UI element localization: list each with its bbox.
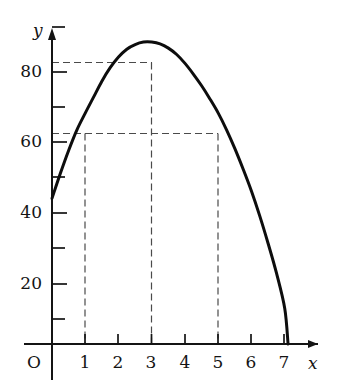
- x-tick-label-2: 2: [108, 354, 128, 371]
- x-tick-label-6: 6: [241, 354, 261, 371]
- axes: [24, 28, 318, 380]
- y-tick-label-60: 60: [8, 133, 42, 150]
- y-axis-arrow-icon: [48, 28, 56, 40]
- guide-lines: [52, 63, 218, 345]
- x-tick-label-1: 1: [75, 354, 95, 371]
- chart-figure: 80 60 40 20 1 2 3 4 5 6 7 O y x: [0, 0, 340, 388]
- x-axis-name-label: x: [308, 355, 318, 372]
- data-curve: [52, 42, 288, 344]
- y-tick-label-80: 80: [8, 63, 42, 80]
- origin-label: O: [27, 354, 41, 371]
- x-tick-label-3: 3: [141, 354, 161, 371]
- y-tick-label-20: 20: [8, 275, 42, 292]
- x-tick-label-5: 5: [208, 354, 228, 371]
- y-axis-name-label: y: [33, 22, 43, 39]
- x-axis-ticks: [85, 334, 284, 344]
- x-tick-label-7: 7: [274, 354, 294, 371]
- y-tick-label-40: 40: [8, 204, 42, 221]
- x-axis-arrow-icon: [308, 340, 318, 348]
- x-tick-label-4: 4: [175, 354, 195, 371]
- plot-canvas: [0, 0, 340, 388]
